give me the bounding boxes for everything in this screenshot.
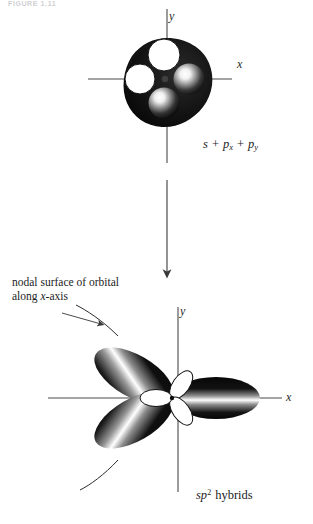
annotation-leader-group <box>0 305 313 365</box>
figure-page: FIGURE 1.11 <box>0 0 313 524</box>
caption-hybrids-word: hybrids <box>215 488 253 502</box>
annotation-line-2-post: -axis <box>46 290 68 302</box>
shaded-sphere-lower <box>149 88 180 119</box>
white-lobe-left <box>125 64 155 94</box>
caption-s: s <box>203 137 208 151</box>
caption-sub-x: x <box>229 142 233 152</box>
bottom-x-axis-label: x <box>286 391 291 403</box>
top-y-axis-label: y <box>169 10 174 22</box>
caption-sp: sp <box>196 488 207 502</box>
annotation-line-2: along x-axis <box>12 290 119 304</box>
annotation-leader-arrow <box>62 313 101 324</box>
back-lobe-left <box>140 390 172 407</box>
bottom-origin-dot <box>170 396 174 400</box>
top-panel-caption: s+px+py <box>203 138 258 152</box>
white-lobe-upper <box>148 39 180 71</box>
nucleus-dot <box>162 76 168 82</box>
nodal-curve-lower <box>80 460 118 490</box>
caption-plus-2: + <box>237 137 244 151</box>
caption-sp-exponent: 2 <box>207 488 211 497</box>
annotation-line-2-pre: along <box>12 290 40 302</box>
shaded-sphere-right <box>174 64 205 95</box>
nodal-surface-annotation: nodal surface of orbital along x-axis <box>12 276 119 303</box>
top-orbital-diagram <box>0 0 313 175</box>
transformation-arrow-group <box>0 175 313 285</box>
annotation-line-1: nodal surface of orbital <box>12 276 119 290</box>
top-x-axis-label: x <box>237 58 242 70</box>
bottom-panel-caption: sp2hybrids <box>196 489 253 502</box>
caption-plus-1: + <box>212 137 219 151</box>
caption-sub-y: y <box>254 142 258 152</box>
